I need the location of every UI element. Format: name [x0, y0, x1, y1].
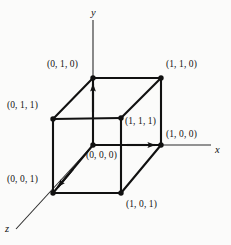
vertex-dot-0-0-1	[50, 190, 55, 195]
x-axis-label: x	[215, 145, 220, 156]
vertex-label-0-1-0: (0, 1, 0)	[47, 60, 78, 70]
z-axis-arrow	[58, 169, 73, 187]
edge-top-left	[53, 78, 93, 119]
vertex-dot-0-1-1	[50, 116, 55, 121]
vertex-label-0-0-0: (0, 0, 0)	[86, 151, 117, 161]
edge-top-right	[121, 78, 161, 118]
vertex-label-1-0-0: (1, 0, 0)	[166, 130, 197, 140]
vertex-dot-0-1-0	[90, 75, 95, 80]
cube-edges	[53, 78, 161, 193]
vertex-label-1-1-0: (1, 1, 0)	[166, 60, 197, 70]
edge-top-front	[53, 118, 121, 119]
axis-lines	[16, 20, 211, 229]
edge-bot-right	[121, 145, 161, 193]
unit-cube-figure: (0, 1, 0) (1, 1, 0) (0, 1, 1) (1, 1, 1) …	[0, 0, 231, 245]
vertex-label-1-1-1: (1, 1, 1)	[125, 117, 156, 127]
vertex-dot-1-1-1	[118, 115, 123, 120]
y-axis-label: y	[91, 8, 96, 19]
vertex-label-1-0-1: (1, 0, 1)	[126, 200, 157, 210]
vertex-label-0-0-1: (0, 0, 1)	[7, 175, 38, 185]
vertex-dot-1-1-0	[158, 75, 163, 80]
vertex-dot-1-0-0	[158, 142, 163, 147]
z-axis-label: z	[5, 224, 9, 235]
cube-drawing-canvas	[0, 0, 231, 245]
vertex-label-0-1-1: (0, 1, 1)	[7, 101, 38, 111]
vertex-dot-1-0-1	[118, 190, 123, 195]
vertex-dot-0-0-0	[90, 142, 95, 147]
